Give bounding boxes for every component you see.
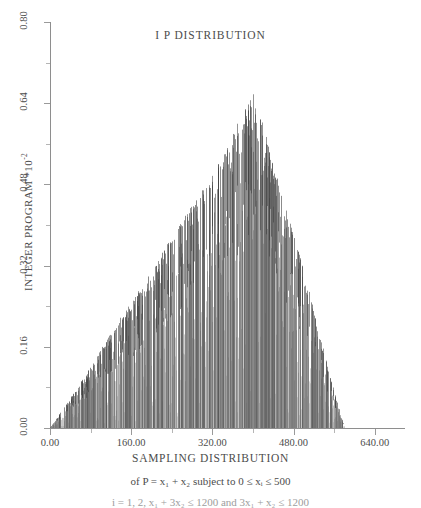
x-tick	[375, 429, 376, 435]
x-tick	[212, 429, 213, 435]
plot-area	[50, 22, 395, 428]
caption-line-1: of P = x₁ + x₂ subject to 0 ≤ xᵢ ≤ 500	[0, 475, 421, 487]
x-tick-label: 320.00	[177, 437, 247, 448]
y-tick-label: 0.80	[18, 4, 29, 38]
y-tick-minor	[46, 387, 50, 388]
x-tick-label: 160.00	[96, 437, 166, 448]
y-tick-minor	[46, 306, 50, 307]
y-tick-label: 0.48	[18, 166, 29, 200]
x-tick-label: 0.00	[15, 437, 85, 448]
y-tick-minor	[46, 144, 50, 145]
distribution-spikes	[50, 22, 395, 428]
x-tick-minor	[172, 429, 173, 433]
y-axis-title: INTEGER PROGRAM *10-2	[20, 122, 34, 322]
y-tick-label: 0.64	[18, 85, 29, 119]
x-tick-minor	[253, 429, 254, 433]
y-tick	[44, 22, 50, 23]
y-tick	[44, 103, 50, 104]
y-tick-minor	[46, 63, 50, 64]
x-axis-title: SAMPLING DISTRIBUTION	[0, 452, 421, 464]
x-tick	[294, 429, 295, 435]
x-axis-line	[50, 428, 405, 429]
y-tick	[44, 347, 50, 348]
x-tick-label: 640.00	[340, 437, 410, 448]
x-tick-minor	[91, 429, 92, 433]
y-axis-exponent: -2	[20, 153, 29, 160]
y-tick-label: 0.16	[18, 328, 29, 362]
y-tick	[44, 266, 50, 267]
y-tick-minor	[46, 225, 50, 226]
x-tick-label: 480.00	[259, 437, 329, 448]
y-tick-label: 0.32	[18, 247, 29, 281]
x-tick	[50, 429, 51, 435]
y-tick	[44, 184, 50, 185]
caption-line-2: i = 1, 2, x₁ + 3x₂ ≤ 1200 and 3x₁ + x₂ ≤…	[0, 496, 421, 508]
x-tick	[131, 429, 132, 435]
x-tick-minor	[334, 429, 335, 433]
